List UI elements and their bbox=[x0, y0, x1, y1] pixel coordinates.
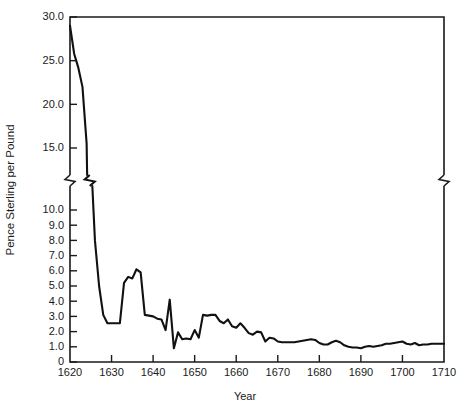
x-tick-label: 1710 bbox=[432, 366, 456, 378]
x-tick-label: 1650 bbox=[182, 366, 206, 378]
x-tick-label: 1640 bbox=[141, 366, 165, 378]
y-tick-label: 4.0 bbox=[49, 295, 64, 307]
y-tick-label: 30.0 bbox=[43, 10, 64, 22]
y-tick-label: 5.0 bbox=[49, 279, 64, 291]
y-tick-label: 2.0 bbox=[49, 325, 64, 337]
x-tick-label: 1680 bbox=[307, 366, 331, 378]
y-tick-label: 15.0 bbox=[43, 141, 64, 153]
y-tick-label: 8.0 bbox=[49, 234, 64, 246]
y-tick-label: 3.0 bbox=[49, 310, 64, 322]
axis-break-zigzag bbox=[439, 175, 449, 186]
x-axis-title: Year bbox=[234, 390, 257, 402]
y-axis-ticks bbox=[70, 17, 77, 362]
y-axis-title: Pence Sterling per Pound bbox=[4, 124, 16, 255]
x-tick-label: 1670 bbox=[266, 366, 290, 378]
y-tick-label: 20.0 bbox=[43, 98, 64, 110]
data-series-tobacco-price bbox=[70, 26, 444, 349]
x-axis-ticks bbox=[112, 355, 403, 362]
y-tick-label: 10.0 bbox=[43, 203, 64, 215]
y-tick-label: 6.0 bbox=[49, 264, 64, 276]
y-axis-tick-labels: 01.02.03.04.05.06.07.08.09.010.015.020.0… bbox=[43, 10, 64, 367]
axis-break-marks bbox=[65, 175, 449, 186]
series-segment-lower bbox=[92, 186, 444, 348]
axis-break-zigzag bbox=[65, 175, 75, 186]
y-tick-label: 9.0 bbox=[49, 219, 64, 231]
x-tick-label: 1660 bbox=[224, 366, 248, 378]
y-tick-label: 7.0 bbox=[49, 249, 64, 261]
x-tick-label: 1700 bbox=[390, 366, 414, 378]
axis-break-zigzag bbox=[85, 175, 95, 186]
x-axis-tick-labels: 1620163016401650166016701680169017001710 bbox=[58, 366, 456, 378]
chart-container: 01.02.03.04.05.06.07.08.09.010.015.020.0… bbox=[0, 0, 472, 414]
x-tick-label: 1620 bbox=[58, 366, 82, 378]
line-chart: 01.02.03.04.05.06.07.08.09.010.015.020.0… bbox=[0, 0, 472, 414]
y-tick-label: 25.0 bbox=[43, 54, 64, 66]
x-tick-label: 1630 bbox=[99, 366, 123, 378]
x-tick-label: 1690 bbox=[349, 366, 373, 378]
series-segment-upper bbox=[70, 26, 87, 175]
y-tick-label: 1.0 bbox=[49, 340, 64, 352]
plot-frame bbox=[70, 17, 444, 362]
